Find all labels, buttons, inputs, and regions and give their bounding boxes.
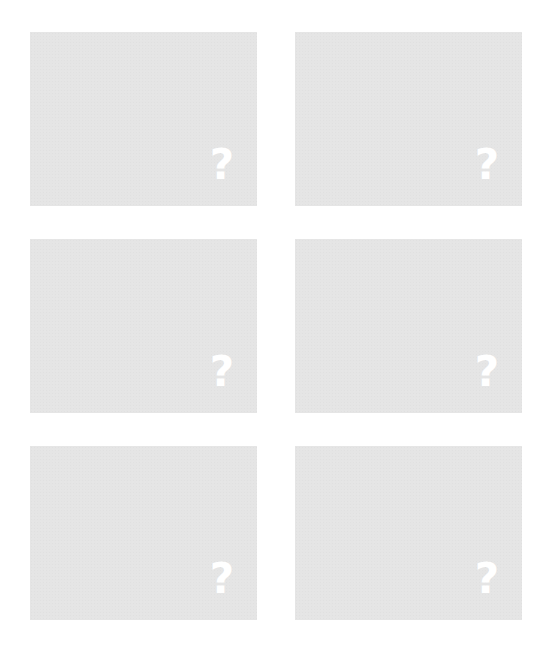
question-mark-icon: ?	[475, 558, 499, 600]
tile-3[interactable]: ?	[30, 239, 257, 413]
tile-grid: ? ? ? ? ? ?	[30, 32, 522, 620]
tile-5[interactable]: ?	[30, 446, 257, 620]
question-mark-icon: ?	[210, 144, 234, 186]
tile-1[interactable]: ?	[30, 32, 257, 206]
question-mark-icon: ?	[475, 351, 499, 393]
tile-2[interactable]: ?	[295, 32, 522, 206]
tile-6[interactable]: ?	[295, 446, 522, 620]
question-mark-icon: ?	[210, 351, 234, 393]
question-mark-icon: ?	[210, 558, 234, 600]
tile-4[interactable]: ?	[295, 239, 522, 413]
question-mark-icon: ?	[475, 144, 499, 186]
